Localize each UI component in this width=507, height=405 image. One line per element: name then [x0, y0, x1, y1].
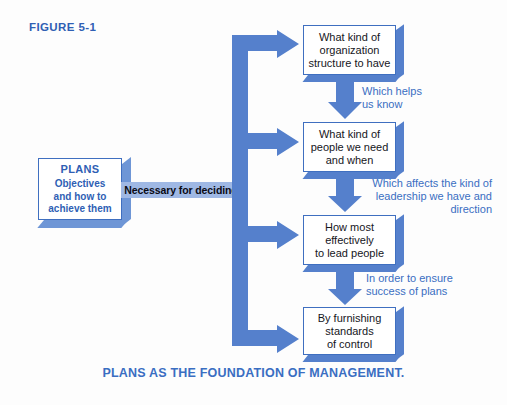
box-side-shadow [396, 121, 404, 177]
box-line-2: effectively [315, 234, 384, 247]
connector-caption-in-order-to-ensure: In order to ensure success of plans [366, 272, 453, 298]
box-side-shadow [396, 24, 404, 80]
box-line-3: to lead people [315, 247, 384, 260]
box-side-shadow [396, 306, 404, 360]
connector-line-1: Which helps [362, 85, 422, 98]
box-bottom-shadow [303, 75, 401, 82]
process-box-standards-of-control: By furnishing standards of control [303, 307, 396, 355]
connector-line-2: us know [362, 98, 422, 111]
box-line-2: people we need [311, 141, 389, 154]
box-line-1: How most [315, 221, 384, 234]
process-box-people-needed: What kind of people we need and when [303, 122, 396, 172]
down-arrow-1 [328, 80, 362, 119]
box-text: What kind of people we need and when [311, 128, 389, 167]
box-face: How most effectively to lead people [303, 215, 396, 265]
box-bottom-shadow [303, 265, 401, 272]
box-line-1: What kind of [309, 31, 391, 44]
connector-caption-which-affects-leadership: Which affects the kind of leadership we … [352, 177, 492, 216]
connector-line-2: leadership we have and [352, 190, 492, 203]
connector-caption-which-helps-us-know: Which helps us know [362, 85, 422, 111]
box-line-3: and when [311, 154, 389, 167]
box-text: What kind of organization structure to h… [309, 31, 391, 70]
connector-line-1: In order to ensure [366, 272, 453, 285]
box-face: What kind of organization structure to h… [303, 25, 396, 75]
box-line-2: organization [309, 44, 391, 57]
box-side-shadow [396, 214, 404, 270]
process-box-lead-people: How most effectively to lead people [303, 215, 396, 265]
figure-container: FIGURE 5-1 PLANS Objectives and how to a… [0, 0, 507, 405]
box-line-1: By furnishing [318, 312, 382, 325]
box-line-1: What kind of [311, 128, 389, 141]
connector-line-1: Which affects the kind of [352, 177, 492, 190]
box-face: What kind of people we need and when [303, 122, 396, 172]
connector-line-3: direction [352, 203, 492, 216]
down-arrow-3 [328, 270, 362, 305]
box-text: How most effectively to lead people [315, 221, 384, 260]
box-line-3: structure to have [309, 57, 391, 70]
box-line-3: of control [318, 338, 382, 351]
trunk-spine [232, 35, 248, 346]
box-face: By furnishing standards of control [303, 307, 396, 355]
connector-line-2: success of plans [366, 285, 453, 298]
figure-caption: PLANS AS THE FOUNDATION OF MANAGEMENT. [0, 366, 507, 380]
box-bottom-shadow [303, 355, 401, 362]
box-line-2: standards [318, 325, 382, 338]
box-text: By furnishing standards of control [318, 312, 382, 351]
process-box-organization-structure: What kind of organization structure to h… [303, 25, 396, 75]
